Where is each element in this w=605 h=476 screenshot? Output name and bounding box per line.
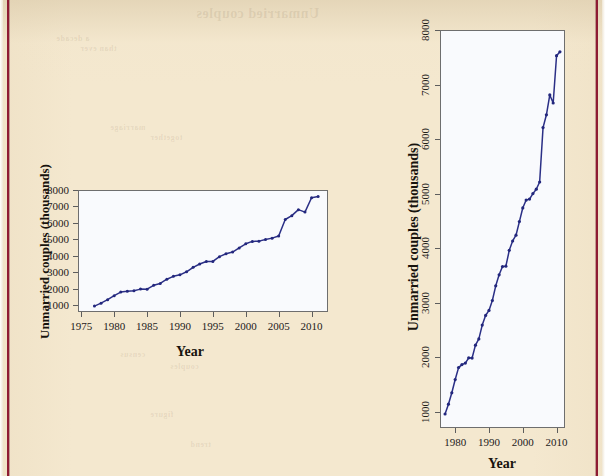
x-tick-label: 2005 [268,320,290,332]
y-tick [435,303,440,304]
x-tick [114,312,115,317]
x-tick [523,428,524,433]
y-tick [73,223,78,224]
x-tick-label: 2000 [512,436,534,448]
x-tick-label: 2010 [301,320,323,332]
x-tick [279,312,280,317]
x-tick [81,312,82,317]
x-axis-title-left: Year [176,344,204,360]
x-tick [180,312,181,317]
x-tick-label: 1980 [103,320,125,332]
y-tick [435,248,440,249]
x-tick-label: 2010 [546,436,568,448]
bleed-through-text: together [150,133,182,142]
x-tick-label: 1985 [136,320,158,332]
y-tick [73,272,78,273]
y-tick [73,289,78,290]
bleed-through-text: marriage [110,123,146,132]
figure-left: 1975198019851990199520002005201010002000… [28,178,348,383]
x-axis-title-right: Year [488,456,516,472]
y-tick-label: 7000 [419,70,431,100]
y-tick [435,30,440,31]
y-tick [435,357,440,358]
y-tick [435,139,440,140]
plot-series-right [440,30,565,428]
figure-right: 1980199020002010100020003000400050006000… [372,2,587,474]
x-tick [147,312,148,317]
x-tick-label: 1995 [202,320,224,332]
bleed-through-text: a decade [56,34,90,43]
margin-rule-right [596,0,598,476]
y-tick [73,239,78,240]
y-axis-title-left: Unmarried couples (thousands) [37,169,53,339]
page-edge-left [0,0,3,476]
y-tick [435,194,440,195]
y-axis-title-right: Unmarried couples (thousands) [406,122,422,352]
y-tick [435,85,440,86]
margin-rule-left [7,0,9,476]
x-tick [489,428,490,433]
x-tick-label: 1980 [444,436,466,448]
y-tick [73,190,78,191]
x-tick-label: 1990 [478,436,500,448]
y-tick [73,256,78,257]
x-tick [557,428,558,433]
bleed-through-text: Unmarried couples [196,6,319,22]
y-tick [73,305,78,306]
plot-series-left [78,190,328,312]
x-tick [455,428,456,433]
y-tick-label: 8000 [419,15,431,45]
x-tick-label: 1975 [70,320,92,332]
x-tick-label: 1990 [169,320,191,332]
bleed-through-text: trend [190,440,211,449]
x-tick [246,312,247,317]
y-tick [435,412,440,413]
y-tick [73,206,78,207]
y-tick-label: 1000 [419,397,431,427]
bleed-through-text: figure [150,410,173,419]
x-tick [213,312,214,317]
x-tick-label: 2000 [235,320,257,332]
x-tick [312,312,313,317]
bleed-through-text: than ever [80,44,117,53]
